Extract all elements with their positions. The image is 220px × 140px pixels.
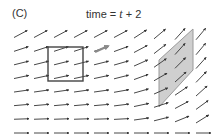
vector-arrow bbox=[196, 57, 206, 68]
vector-arrow bbox=[74, 75, 89, 78]
vector-arrow bbox=[34, 119, 49, 120]
vector-arrow bbox=[34, 75, 49, 78]
vector-arrow bbox=[94, 90, 109, 92]
vector-arrow bbox=[114, 90, 129, 93]
vector-arrow bbox=[74, 61, 89, 65]
deformed-parallelogram bbox=[159, 29, 193, 107]
vector-arrow bbox=[94, 61, 109, 65]
vector-arrow bbox=[154, 44, 166, 53]
vector-arrow bbox=[134, 103, 149, 106]
vector-arrow bbox=[14, 30, 27, 37]
vector-arrow bbox=[94, 30, 107, 37]
vector-arrow bbox=[34, 90, 49, 92]
vector-arrow bbox=[154, 29, 165, 39]
vector-arrow bbox=[74, 90, 89, 92]
vector-arrow bbox=[14, 47, 28, 52]
vector-arrow bbox=[74, 119, 89, 120]
vector-arrow bbox=[34, 47, 48, 52]
vector-arrow bbox=[94, 119, 109, 120]
vector-arrow bbox=[34, 104, 49, 105]
vector-arrow bbox=[74, 104, 89, 105]
vector-arrow bbox=[54, 75, 69, 78]
vector-arrow bbox=[196, 115, 209, 123]
vector-arrow bbox=[134, 45, 147, 52]
vector-arrow bbox=[114, 30, 127, 37]
vector-arrow bbox=[54, 61, 69, 65]
vector-arrow bbox=[114, 61, 128, 65]
vector-arrow bbox=[196, 86, 207, 96]
vector-arrow bbox=[94, 104, 109, 105]
vector-arrow bbox=[94, 75, 109, 78]
vector-arrow bbox=[114, 119, 129, 120]
vector-arrow bbox=[114, 46, 128, 51]
vector-arrow bbox=[196, 101, 208, 110]
vector-arrow bbox=[54, 30, 67, 37]
vector-arrow bbox=[74, 30, 87, 37]
vector-arrow bbox=[14, 61, 29, 65]
vector-arrow bbox=[14, 75, 29, 78]
vector-arrow bbox=[175, 101, 188, 108]
vector-arrow bbox=[196, 72, 206, 83]
vector-arrow bbox=[54, 119, 69, 120]
vector-arrow bbox=[114, 75, 129, 79]
vector-arrow bbox=[134, 30, 147, 38]
vector-arrow bbox=[114, 104, 129, 106]
vector-arrow bbox=[54, 104, 69, 105]
vector-arrow bbox=[14, 104, 29, 105]
vector-arrow bbox=[34, 61, 49, 65]
vector-arrow bbox=[196, 28, 206, 39]
vector-arrow bbox=[54, 90, 69, 92]
vector-arrow bbox=[14, 90, 29, 92]
vector-field-diagram bbox=[0, 0, 220, 140]
transport-arrow bbox=[95, 46, 108, 52]
vector-arrow bbox=[154, 117, 169, 121]
vector-arrow bbox=[134, 74, 148, 79]
vector-arrow bbox=[34, 30, 47, 37]
vector-arrow bbox=[134, 89, 148, 93]
vector-arrow bbox=[14, 119, 29, 120]
vector-arrow bbox=[196, 43, 206, 54]
vector-arrow bbox=[134, 60, 148, 66]
vector-arrow bbox=[134, 118, 149, 120]
vector-arrow bbox=[175, 116, 189, 122]
